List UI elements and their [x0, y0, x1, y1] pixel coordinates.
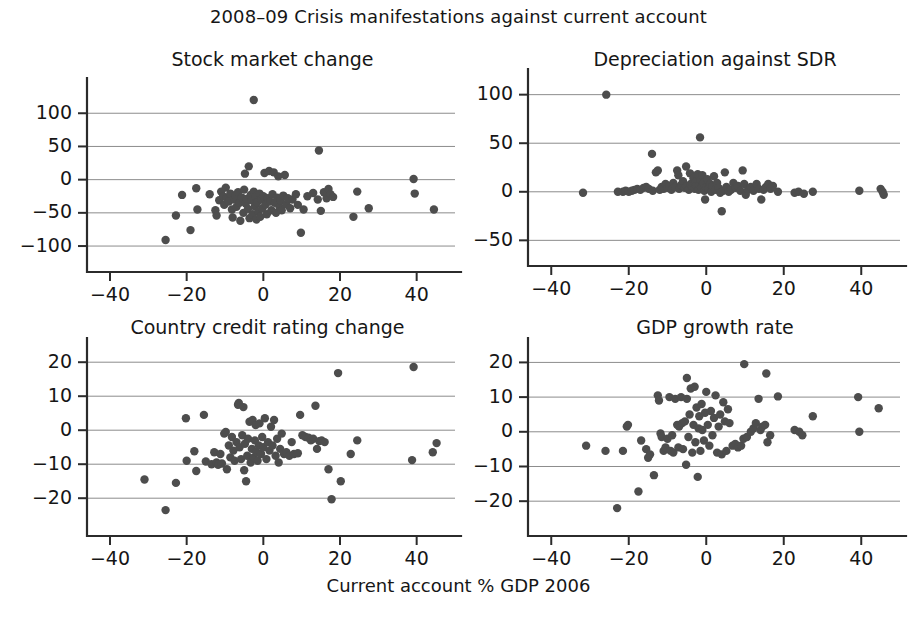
data-points — [161, 96, 438, 245]
data-point — [161, 506, 169, 514]
plot-canvas: 100500−50−100−40−2002040100500−50−40−200… — [0, 0, 917, 623]
data-point — [353, 436, 361, 444]
data-point — [292, 190, 300, 198]
data-point — [650, 471, 658, 479]
data-point — [297, 229, 305, 237]
y-tick-label: 50 — [48, 134, 72, 156]
data-point — [353, 187, 361, 195]
x-tick-label: −40 — [531, 277, 571, 299]
figure-scatter-matrix: 2008–09 Crisis manifestations against cu… — [0, 0, 917, 623]
data-point — [212, 211, 220, 219]
y-tick-label: −10 — [32, 452, 72, 474]
data-point — [205, 190, 213, 198]
data-point — [694, 473, 702, 481]
data-point — [705, 441, 713, 449]
data-point — [262, 455, 270, 463]
data-point — [190, 447, 198, 455]
data-point — [800, 190, 808, 198]
data-point — [762, 369, 770, 377]
data-point — [711, 391, 719, 399]
data-point — [654, 166, 662, 174]
data-point — [281, 171, 289, 179]
x-tick-label: −40 — [90, 547, 130, 569]
data-point — [704, 421, 712, 429]
data-point — [140, 475, 148, 483]
data-point — [296, 411, 304, 419]
x-tick-label: −20 — [167, 547, 207, 569]
axis-spine — [528, 69, 906, 266]
x-tick-label: −40 — [531, 547, 571, 569]
data-point — [637, 436, 645, 444]
data-point — [880, 190, 888, 198]
data-point — [311, 402, 319, 410]
data-point — [874, 404, 882, 412]
x-tick-label: 0 — [257, 547, 269, 569]
data-point — [242, 477, 250, 485]
y-tick-label: 0 — [501, 419, 513, 441]
data-point — [268, 441, 276, 449]
data-point — [192, 467, 200, 475]
data-point — [228, 213, 236, 221]
data-point — [294, 449, 302, 457]
data-point — [798, 431, 806, 439]
shared-xaxis-label: Current account % GDP 2006 — [0, 575, 917, 596]
y-tick-label: −20 — [473, 489, 513, 511]
data-point — [432, 439, 440, 447]
data-point — [619, 447, 627, 455]
data-point — [708, 431, 716, 439]
data-points — [140, 363, 441, 515]
x-tick-label: −20 — [609, 547, 649, 569]
data-point — [855, 428, 863, 436]
x-tick-label: 20 — [772, 547, 796, 569]
data-point — [216, 450, 224, 458]
data-point — [602, 90, 610, 98]
data-point — [329, 193, 337, 201]
data-point — [365, 204, 373, 212]
data-point — [172, 479, 180, 487]
data-point — [315, 146, 323, 154]
data-point — [683, 395, 691, 403]
data-point — [668, 431, 676, 439]
data-point — [601, 447, 609, 455]
x-tick-label: −40 — [90, 283, 130, 305]
x-tick-label: 40 — [405, 283, 429, 305]
data-point — [261, 414, 269, 422]
y-tick-label: 10 — [48, 384, 72, 406]
data-point — [200, 411, 208, 419]
data-point — [688, 448, 696, 456]
data-point — [411, 189, 419, 197]
x-tick-label: 20 — [772, 277, 796, 299]
data-point — [725, 419, 733, 427]
x-tick-label: 0 — [257, 283, 269, 305]
data-point — [241, 169, 249, 177]
data-point — [724, 405, 732, 413]
y-tick-label: 100 — [36, 101, 72, 123]
data-point — [648, 150, 656, 158]
data-point — [701, 195, 709, 203]
data-point — [320, 438, 328, 446]
data-point — [613, 504, 621, 512]
data-point — [288, 438, 296, 446]
x-tick-label: −20 — [167, 283, 207, 305]
x-tick-label: 40 — [405, 547, 429, 569]
data-point — [223, 465, 231, 473]
data-point — [334, 369, 342, 377]
data-point — [349, 213, 357, 221]
data-point — [347, 450, 355, 458]
data-point — [178, 191, 186, 199]
data-point — [740, 360, 748, 368]
data-point — [809, 412, 817, 420]
panel-country-credit-rating-change: 20100−10−20−40−2002040 — [32, 338, 461, 569]
data-point — [408, 456, 416, 464]
data-point — [655, 396, 663, 404]
data-point — [286, 204, 294, 212]
data-point — [696, 133, 704, 141]
data-point — [172, 211, 180, 219]
data-point — [855, 187, 863, 195]
y-tick-label: −20 — [32, 486, 72, 508]
data-point — [317, 207, 325, 215]
data-point — [582, 441, 590, 449]
x-tick-label: 40 — [849, 277, 873, 299]
data-point — [854, 393, 862, 401]
data-point — [757, 195, 765, 203]
